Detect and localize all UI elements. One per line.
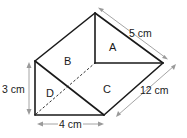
hidden-edge [36,63,95,114]
prism-drawing: A B C D 5 cm 12 cm 3 cm 4 cm [0,0,187,138]
label-3cm: 3 cm [2,83,25,95]
arrowhead-icon [27,62,32,68]
label-12cm: 12 cm [140,84,169,96]
arrowhead-icon [171,64,176,70]
face-label-c: C [103,83,111,95]
label-5cm: 5 cm [129,27,152,39]
face-label-a: A [109,41,117,53]
face-label-b: B [64,55,71,67]
arrowhead-icon [37,122,43,127]
arrowhead-icon [27,109,32,115]
arrowhead-icon [98,122,104,127]
dimension-3cm [27,62,32,115]
triangular-prism-diagram: A B C D 5 cm 12 cm 3 cm 4 cm [0,0,187,138]
label-4cm: 4 cm [59,118,82,130]
face-label-d: D [46,87,54,99]
arrowhead-icon [116,111,121,117]
edge-ridge-top [35,13,95,61]
